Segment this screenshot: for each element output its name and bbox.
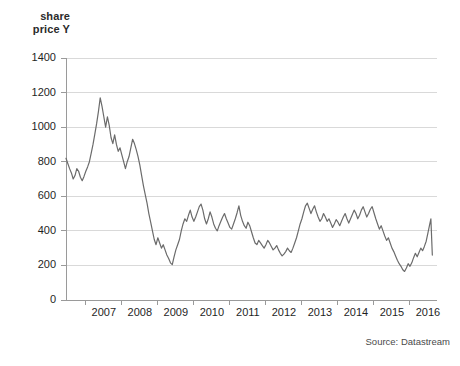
source-note: Source: Datastream (300, 336, 450, 347)
gridline-group (66, 58, 437, 300)
x-tick-label: 2016 (406, 306, 450, 318)
chart-figure: share price Y 0200400600800100012001400 … (0, 0, 460, 366)
y-tick-label: 1000 (12, 120, 56, 132)
y-tick-label: 1400 (12, 51, 56, 63)
share-price-line (66, 98, 432, 272)
y-tick-label: 200 (12, 258, 56, 270)
y-tick-label: 400 (12, 224, 56, 236)
y-axis-title-line-1: share (8, 10, 70, 23)
y-tick-label: 800 (12, 155, 56, 167)
y-tick-label: 0 (12, 293, 56, 305)
y-tick-label: 1200 (12, 86, 56, 98)
x-tick-mark-group (86, 300, 410, 305)
y-tick-label: 600 (12, 189, 56, 201)
y-axis-title-line-2: price Y (8, 23, 70, 36)
y-axis-title: share price Y (8, 10, 70, 36)
y-tick-mark-group (61, 58, 66, 300)
